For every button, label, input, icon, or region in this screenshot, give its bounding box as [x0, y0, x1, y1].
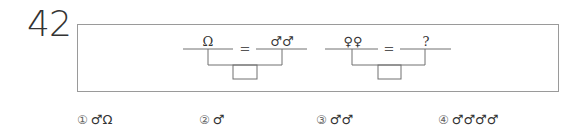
equation-1: Ω = ♂♂ — [183, 34, 307, 79]
eq2-left-symbol: ♀♀ — [343, 34, 362, 49]
eq2-answer-box — [378, 65, 401, 79]
choice-2-text: ♂ — [213, 112, 225, 127]
eq1-equals-sign: = — [240, 41, 251, 56]
eq1-left-symbol: Ω — [203, 34, 214, 49]
equation-2: ♀♀ = ? — [325, 34, 451, 79]
choice-1[interactable]: ①♂Ω — [77, 112, 112, 127]
choice-2[interactable]: ②♂ — [199, 112, 224, 127]
choice-2-number: ② — [199, 113, 210, 127]
choice-4-number: ④ — [438, 113, 449, 127]
eq1-right-symbol: ♂♂ — [270, 34, 293, 49]
choice-4[interactable]: ④♂♂♂♂ — [438, 112, 498, 127]
choice-3-number: ③ — [316, 113, 327, 127]
eq1-answer-box — [233, 65, 257, 79]
choice-4-text: ♂♂♂♂ — [452, 112, 499, 127]
eq2-equals-sign: = — [384, 41, 395, 56]
choice-1-text: ♂Ω — [91, 112, 113, 127]
choice-1-number: ① — [77, 113, 88, 127]
choice-3-text: ♂♂ — [330, 112, 353, 127]
choice-3[interactable]: ③♂♂ — [316, 112, 353, 127]
eq2-right-symbol: ? — [423, 34, 430, 49]
